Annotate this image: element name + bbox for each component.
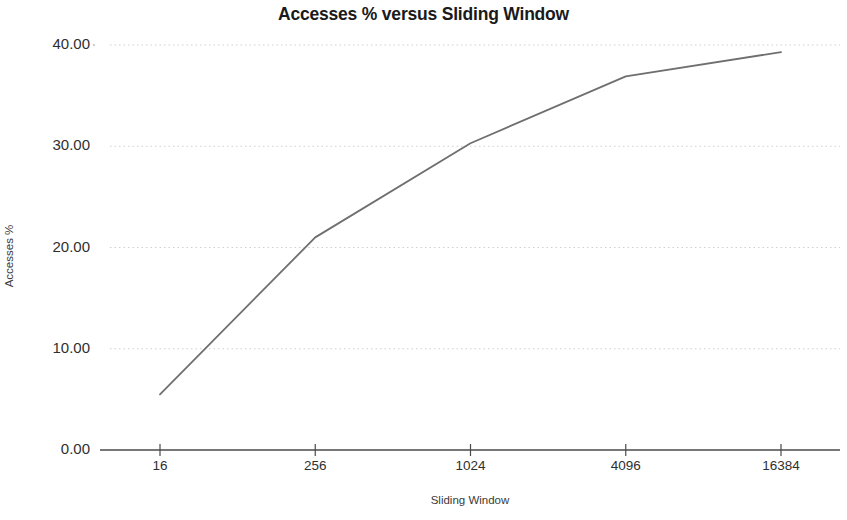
y-tick-label: 10.00: [0, 339, 90, 356]
x-tick-label: 16384: [731, 458, 831, 473]
gridlines: [93, 44, 840, 349]
y-tick-label: 0.00: [0, 440, 90, 457]
y-tick-label: 30.00: [0, 136, 90, 153]
x-tick-label: 1024: [421, 458, 521, 473]
x-tick-label: 16: [110, 458, 210, 473]
chart-container: Accesses % versus Sliding Window Accesse…: [0, 0, 847, 520]
y-tick-label: 40.00: [0, 35, 90, 52]
x-tick-label: 4096: [576, 458, 676, 473]
x-tick-label: 256: [265, 458, 365, 473]
plot-area: [0, 0, 847, 520]
y-tick-label: 20.00: [0, 238, 90, 255]
data-series-line: [160, 52, 781, 394]
series-line-accesses: [160, 52, 781, 394]
y-tick-mark: [93, 44, 95, 46]
